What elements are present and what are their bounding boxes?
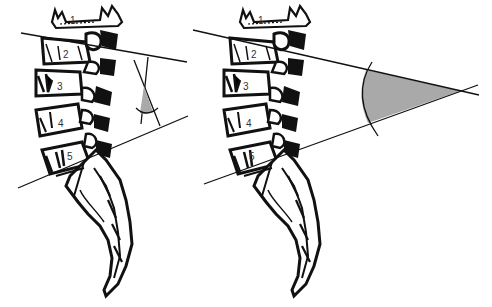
vertebra-label-l5: 5 xyxy=(249,151,255,162)
vertebra-label-l1: 1 xyxy=(70,15,76,26)
vertebra-label-l4: 4 xyxy=(58,118,64,129)
vertebra-label-l5: 5 xyxy=(67,151,73,162)
spine-drawing-right xyxy=(224,6,320,296)
vertebra-label-l2: 2 xyxy=(63,49,69,60)
right-panel: 1 2 3 4 5 xyxy=(193,6,479,296)
left-panel: 1 2 3 4 5 xyxy=(18,6,188,296)
vertebra-label-l3: 3 xyxy=(243,81,249,92)
vertebra-label-l4: 4 xyxy=(246,118,252,129)
lordosis-diagram: 1 2 3 4 5 1 2 3 4 5 xyxy=(0,0,492,307)
vertebra-label-l2: 2 xyxy=(251,49,257,60)
vertebra-label-l1: 1 xyxy=(258,15,264,26)
vertebra-label-l3: 3 xyxy=(57,81,63,92)
lower-endplate-line-right xyxy=(204,85,478,184)
